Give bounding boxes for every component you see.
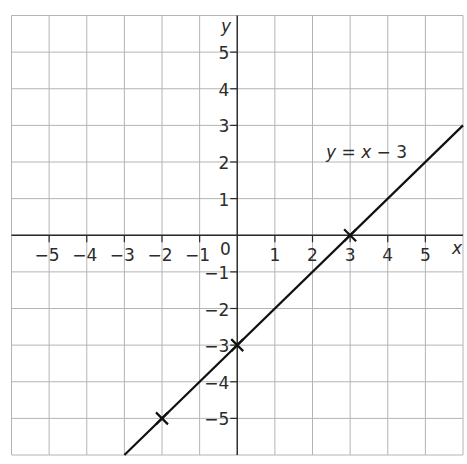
y-tick-label: 2 — [218, 153, 229, 173]
y-tick-label: 4 — [218, 80, 229, 100]
x-tick-label: 5 — [420, 245, 431, 265]
equation-annotation: y = x − 3 — [325, 142, 407, 162]
x-tick-label: −2 — [147, 245, 172, 265]
x-tick-label: −4 — [72, 245, 97, 265]
y-tick-label: −2 — [204, 300, 229, 320]
x-axis-label: x — [451, 238, 463, 258]
y-tick-label: −5 — [204, 409, 229, 429]
x-tick-label: 1 — [269, 245, 280, 265]
y-tick-label: 1 — [218, 190, 229, 210]
x-tick-label: 3 — [345, 245, 356, 265]
y-tick-label: 3 — [218, 116, 229, 136]
equation-equals: = — [336, 142, 361, 162]
y-tick-label: −1 — [204, 263, 229, 283]
coordinate-graph: −5−4−3−2−11234554321−1−2−3−4−5 x y 0 y =… — [0, 0, 467, 464]
y-axis-label: y — [220, 16, 232, 36]
y-tick-label: −4 — [204, 373, 229, 393]
y-tick-label: −3 — [204, 336, 229, 356]
x-tick-label: −5 — [35, 245, 60, 265]
x-tick-label: 4 — [382, 245, 393, 265]
equation-rest: − 3 — [371, 142, 407, 162]
x-tick-label: 2 — [307, 245, 318, 265]
tick-labels: −5−4−3−2−11234554321−1−2−3−4−5 — [35, 43, 431, 429]
line-y-equals-x-minus-3 — [124, 125, 463, 455]
origin-label: 0 — [220, 239, 231, 259]
plot-series — [124, 125, 463, 455]
axes — [12, 16, 464, 456]
y-tick-label: 5 — [218, 43, 229, 63]
x-tick-label: −3 — [110, 245, 135, 265]
